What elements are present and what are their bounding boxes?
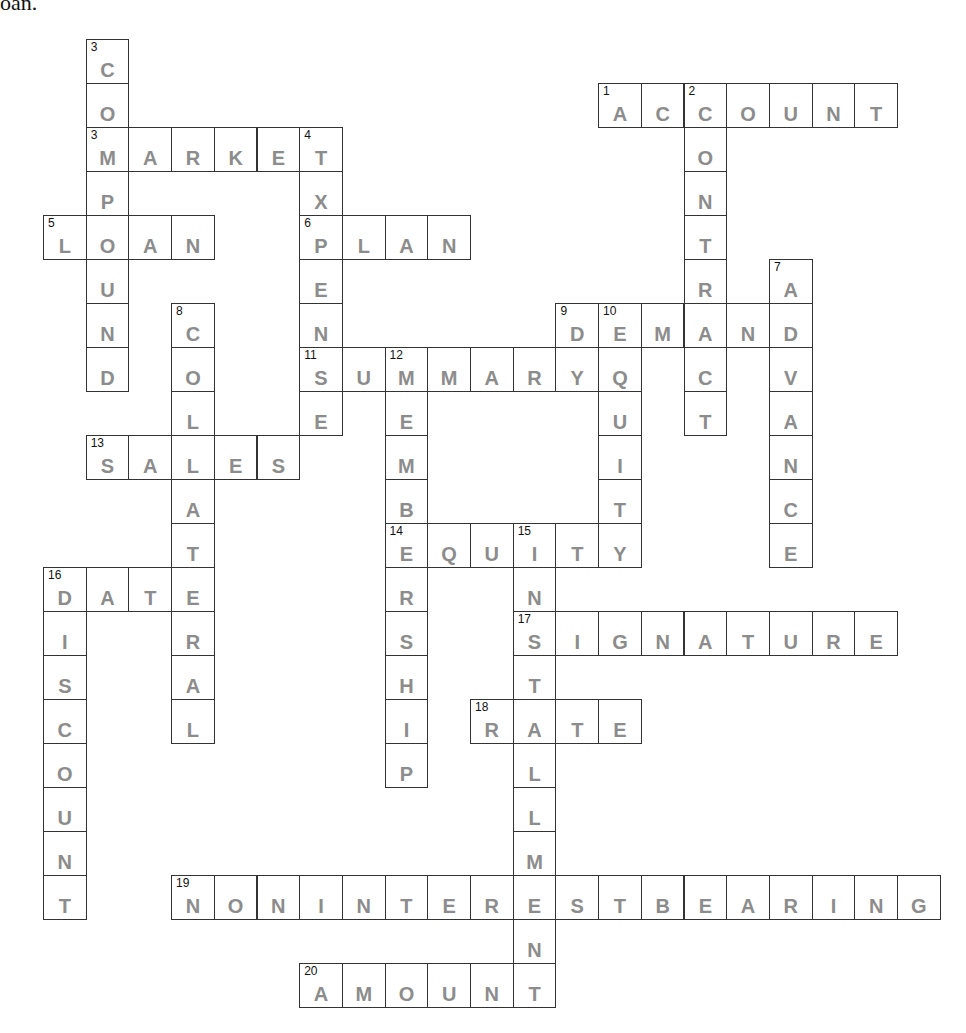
- crossword-cell[interactable]: E: [171, 567, 215, 612]
- crossword-cell[interactable]: 9D: [555, 303, 599, 348]
- crossword-cell[interactable]: 3M: [86, 127, 130, 172]
- crossword-cell[interactable]: T: [513, 963, 557, 1008]
- crossword-cell[interactable]: 13S: [86, 435, 130, 480]
- crossword-cell[interactable]: 18R: [470, 699, 514, 744]
- crossword-cell[interactable]: T: [684, 391, 728, 436]
- crossword-cell[interactable]: A: [171, 655, 215, 700]
- crossword-cell[interactable]: R: [171, 611, 215, 656]
- crossword-cell[interactable]: U: [427, 963, 471, 1008]
- crossword-cell[interactable]: A: [128, 127, 172, 172]
- crossword-cell[interactable]: L: [513, 743, 557, 788]
- crossword-cell[interactable]: X: [299, 171, 343, 216]
- crossword-cell[interactable]: N: [513, 919, 557, 964]
- crossword-cell[interactable]: M: [513, 831, 557, 876]
- crossword-cell[interactable]: G: [897, 875, 941, 920]
- crossword-cell[interactable]: R: [171, 127, 215, 172]
- crossword-cell[interactable]: P: [86, 171, 130, 216]
- crossword-cell[interactable]: B: [641, 875, 685, 920]
- crossword-cell[interactable]: R: [812, 611, 856, 656]
- crossword-cell[interactable]: N: [684, 171, 728, 216]
- crossword-cell[interactable]: E: [854, 611, 898, 656]
- crossword-cell[interactable]: C: [684, 347, 728, 392]
- crossword-cell[interactable]: A: [86, 567, 130, 612]
- crossword-cell[interactable]: O: [726, 83, 770, 128]
- crossword-cell[interactable]: E: [769, 523, 813, 568]
- crossword-cell[interactable]: R: [684, 259, 728, 304]
- crossword-cell[interactable]: A: [513, 699, 557, 744]
- crossword-cell[interactable]: O: [43, 743, 87, 788]
- crossword-cell[interactable]: M: [427, 347, 471, 392]
- crossword-cell[interactable]: B: [385, 479, 429, 524]
- crossword-cell[interactable]: N: [342, 875, 386, 920]
- crossword-cell[interactable]: O: [684, 127, 728, 172]
- crossword-cell[interactable]: 2C: [684, 83, 728, 128]
- crossword-cell[interactable]: A: [726, 875, 770, 920]
- crossword-cell[interactable]: E: [214, 435, 258, 480]
- crossword-cell[interactable]: O: [171, 347, 215, 392]
- crossword-cell[interactable]: U: [769, 83, 813, 128]
- crossword-cell[interactable]: Y: [598, 523, 642, 568]
- crossword-cell[interactable]: C: [641, 83, 685, 128]
- crossword-cell[interactable]: U: [43, 787, 87, 832]
- crossword-cell[interactable]: A: [128, 435, 172, 480]
- crossword-cell[interactable]: A: [171, 479, 215, 524]
- crossword-cell[interactable]: U: [598, 391, 642, 436]
- crossword-cell[interactable]: 4T: [299, 127, 343, 172]
- crossword-cell[interactable]: 12M: [385, 347, 429, 392]
- crossword-cell[interactable]: N: [171, 215, 215, 260]
- crossword-cell[interactable]: A: [684, 611, 728, 656]
- crossword-cell[interactable]: T: [598, 875, 642, 920]
- crossword-cell[interactable]: A: [470, 347, 514, 392]
- crossword-cell[interactable]: N: [86, 303, 130, 348]
- crossword-cell[interactable]: U: [769, 611, 813, 656]
- crossword-cell[interactable]: 8C: [171, 303, 215, 348]
- crossword-cell[interactable]: T: [726, 611, 770, 656]
- crossword-cell[interactable]: 17S: [513, 611, 557, 656]
- crossword-cell[interactable]: M: [385, 435, 429, 480]
- crossword-cell[interactable]: T: [128, 567, 172, 612]
- crossword-cell[interactable]: T: [171, 523, 215, 568]
- crossword-cell[interactable]: M: [342, 963, 386, 1008]
- crossword-cell[interactable]: L: [171, 699, 215, 744]
- crossword-cell[interactable]: 1A: [598, 83, 642, 128]
- crossword-cell[interactable]: S: [43, 655, 87, 700]
- crossword-cell[interactable]: R: [470, 875, 514, 920]
- crossword-cell[interactable]: H: [385, 655, 429, 700]
- crossword-cell[interactable]: T: [555, 699, 599, 744]
- crossword-cell[interactable]: I: [555, 611, 599, 656]
- crossword-cell[interactable]: 15I: [513, 523, 557, 568]
- crossword-cell[interactable]: N: [427, 215, 471, 260]
- crossword-cell[interactable]: Q: [427, 523, 471, 568]
- crossword-cell[interactable]: K: [214, 127, 258, 172]
- crossword-cell[interactable]: 10E: [598, 303, 642, 348]
- crossword-cell[interactable]: E: [299, 259, 343, 304]
- crossword-cell[interactable]: T: [854, 83, 898, 128]
- crossword-cell[interactable]: E: [299, 391, 343, 436]
- crossword-cell[interactable]: D: [86, 347, 130, 392]
- crossword-cell[interactable]: 5L: [43, 215, 87, 260]
- crossword-cell[interactable]: E: [513, 875, 557, 920]
- crossword-cell[interactable]: 6P: [299, 215, 343, 260]
- crossword-cell[interactable]: A: [128, 215, 172, 260]
- crossword-cell[interactable]: C: [769, 479, 813, 524]
- crossword-cell[interactable]: O: [214, 875, 258, 920]
- crossword-cell[interactable]: I: [43, 611, 87, 656]
- crossword-cell[interactable]: E: [257, 127, 301, 172]
- crossword-cell[interactable]: P: [385, 743, 429, 788]
- crossword-cell[interactable]: N: [641, 611, 685, 656]
- crossword-cell[interactable]: U: [86, 259, 130, 304]
- crossword-cell[interactable]: U: [470, 523, 514, 568]
- crossword-cell[interactable]: 20A: [299, 963, 343, 1008]
- crossword-cell[interactable]: S: [385, 611, 429, 656]
- crossword-cell[interactable]: T: [684, 215, 728, 260]
- crossword-cell[interactable]: E: [427, 875, 471, 920]
- crossword-cell[interactable]: T: [513, 655, 557, 700]
- crossword-cell[interactable]: 7A: [769, 259, 813, 304]
- crossword-cell[interactable]: 19N: [171, 875, 215, 920]
- crossword-cell[interactable]: E: [385, 391, 429, 436]
- crossword-cell[interactable]: E: [598, 699, 642, 744]
- crossword-cell[interactable]: O: [86, 83, 130, 128]
- crossword-cell[interactable]: I: [812, 875, 856, 920]
- crossword-cell[interactable]: M: [641, 303, 685, 348]
- crossword-cell[interactable]: O: [385, 963, 429, 1008]
